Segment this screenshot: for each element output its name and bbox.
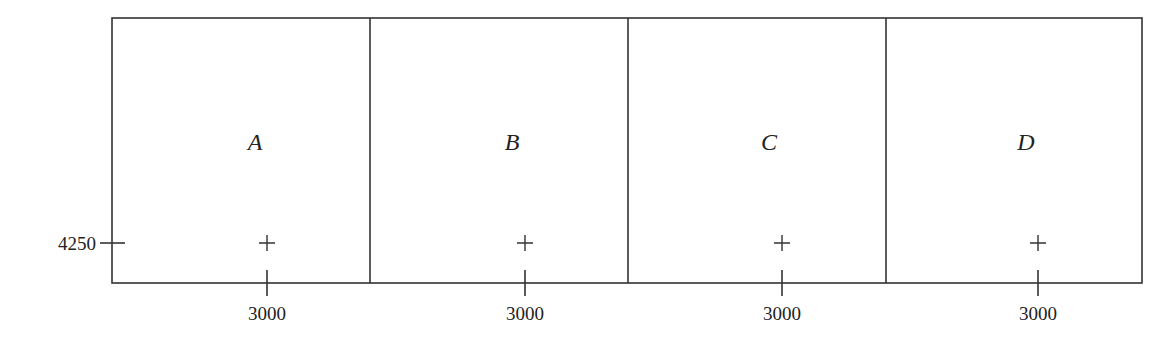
panel-label-c: C bbox=[761, 129, 778, 155]
data-markers bbox=[259, 235, 1046, 251]
plus-marker bbox=[517, 235, 533, 251]
chart: 4250 3000 3000 3000 3000 A B C D bbox=[0, 0, 1176, 341]
x-tick-label: 3000 bbox=[506, 303, 544, 324]
panel-label-a: A bbox=[246, 129, 263, 155]
x-tick-label: 3000 bbox=[763, 303, 801, 324]
plus-marker bbox=[1030, 235, 1046, 251]
x-tick-label: 3000 bbox=[248, 303, 286, 324]
plus-marker bbox=[774, 235, 790, 251]
x-tick-label: 3000 bbox=[1019, 303, 1057, 324]
panel-label-d: D bbox=[1016, 129, 1034, 155]
plus-marker bbox=[259, 235, 275, 251]
y-tick-label: 4250 bbox=[58, 233, 96, 254]
panel-label-b: B bbox=[505, 129, 520, 155]
